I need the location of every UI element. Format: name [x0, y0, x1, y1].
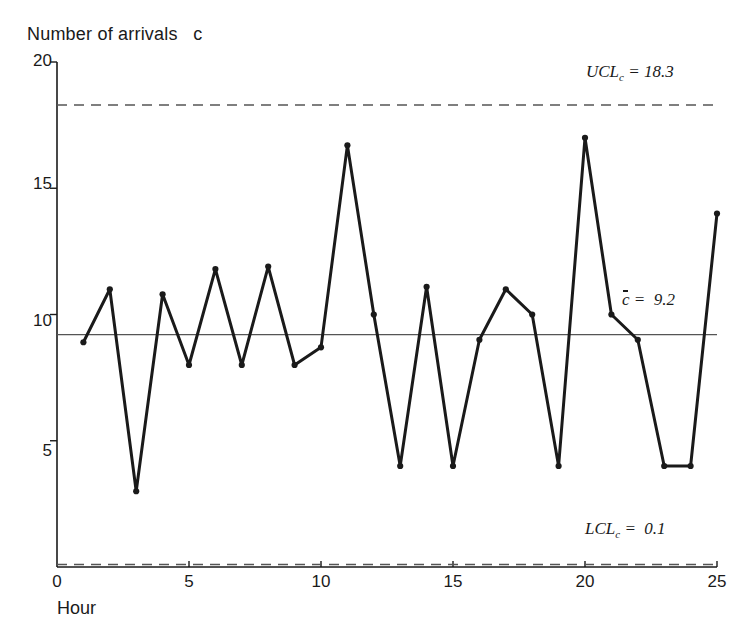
data-point-markers [80, 135, 720, 495]
data-point-24 [688, 463, 694, 469]
data-point-20 [582, 135, 588, 141]
data-point-13 [397, 463, 403, 469]
data-point-12 [371, 311, 377, 317]
data-point-3 [133, 488, 139, 494]
data-point-19 [556, 463, 562, 469]
data-point-1 [80, 339, 86, 345]
axis-lines [57, 62, 717, 567]
data-point-14 [424, 284, 430, 290]
data-point-4 [160, 291, 166, 297]
data-point-7 [239, 362, 245, 368]
data-polyline [83, 138, 717, 492]
data-point-16 [476, 337, 482, 343]
data-point-17 [503, 286, 509, 292]
data-point-21 [608, 311, 614, 317]
data-point-18 [529, 311, 535, 317]
data-point-10 [318, 344, 324, 350]
data-point-9 [292, 362, 298, 368]
data-point-5 [186, 362, 192, 368]
data-point-22 [635, 337, 641, 343]
control-chart: Number of arrivals c 20 15 10 5 0 5 10 1… [0, 0, 749, 642]
data-point-8 [265, 263, 271, 269]
y-tick-marks [50, 62, 57, 441]
data-point-2 [107, 286, 113, 292]
data-point-23 [661, 463, 667, 469]
chart-canvas [0, 0, 749, 642]
data-point-15 [450, 463, 456, 469]
data-point-11 [344, 142, 350, 148]
data-point-6 [212, 266, 218, 272]
data-point-25 [714, 210, 720, 216]
